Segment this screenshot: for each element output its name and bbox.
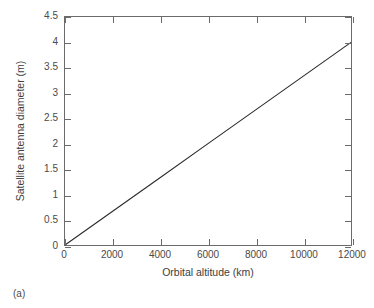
x-tick-label: 2000 <box>101 250 123 260</box>
y-tick-mark-right <box>345 170 351 171</box>
x-tick-mark <box>209 239 210 245</box>
y-tick-label: 3 <box>52 88 58 98</box>
x-tick-mark <box>161 239 162 245</box>
y-tick-mark <box>65 221 71 222</box>
y-tick-mark-right <box>345 145 351 146</box>
x-tick-label: 4000 <box>149 250 171 260</box>
x-tick-label: 12000 <box>338 250 366 260</box>
y-tick-label: 4 <box>52 37 58 47</box>
y-tick-label: 0 <box>52 241 58 251</box>
x-tick-mark-top <box>113 17 114 23</box>
panel-caption: (a) <box>13 288 25 299</box>
x-tick-mark-top <box>353 17 354 23</box>
x-tick-mark <box>113 239 114 245</box>
y-tick-mark <box>65 196 71 197</box>
y-tick-label: 1 <box>52 190 58 200</box>
y-tick-label: 1.5 <box>44 164 58 174</box>
y-tick-mark-right <box>345 119 351 120</box>
y-tick-mark-right <box>345 221 351 222</box>
y-tick-mark <box>65 247 71 248</box>
x-tick-mark <box>353 239 354 245</box>
data-series-line <box>65 42 351 245</box>
x-tick-label: 10000 <box>290 250 318 260</box>
x-tick-label: 8000 <box>245 250 267 260</box>
y-tick-mark <box>65 119 71 120</box>
x-tick-label: 0 <box>61 250 67 260</box>
y-tick-label: 2.5 <box>44 113 58 123</box>
plot-area <box>64 16 352 246</box>
y-tick-mark-right <box>345 68 351 69</box>
plot-inner <box>65 17 351 245</box>
y-tick-mark-right <box>345 43 351 44</box>
y-tick-label: 3.5 <box>44 62 58 72</box>
x-tick-mark-top <box>161 17 162 23</box>
y-axis-title: Satellite antenna diameter (m) <box>14 16 30 246</box>
x-tick-label: 6000 <box>197 250 219 260</box>
x-tick-mark <box>305 239 306 245</box>
y-tick-mark-right <box>345 17 351 18</box>
x-tick-mark-top <box>305 17 306 23</box>
y-tick-mark <box>65 145 71 146</box>
y-tick-mark-right <box>345 94 351 95</box>
y-tick-label: 0.5 <box>44 215 58 225</box>
x-tick-mark-top <box>65 17 66 23</box>
y-tick-mark <box>65 94 71 95</box>
x-tick-mark-top <box>209 17 210 23</box>
y-tick-mark <box>65 170 71 171</box>
y-tick-label: 4.5 <box>44 11 58 21</box>
x-tick-mark <box>257 239 258 245</box>
data-line-svg <box>65 17 351 245</box>
y-tick-mark-right <box>345 196 351 197</box>
x-tick-mark <box>65 239 66 245</box>
figure-panel: Satellite antenna diameter (m) 00.511.52… <box>0 0 374 308</box>
x-axis-title: Orbital altitude (km) <box>64 266 352 278</box>
y-tick-label: 2 <box>52 139 58 149</box>
y-tick-mark <box>65 43 71 44</box>
y-tick-mark-right <box>345 247 351 248</box>
x-tick-mark-top <box>257 17 258 23</box>
y-tick-mark <box>65 68 71 69</box>
